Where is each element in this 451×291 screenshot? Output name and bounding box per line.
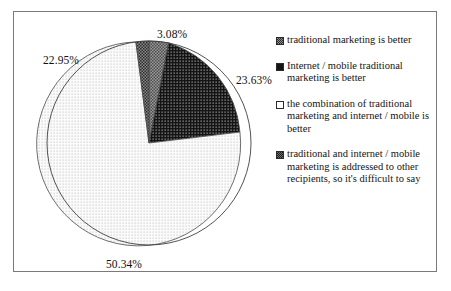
pie-chart-plot-area: 3.08% 23.63% 50.34% 22.95%	[14, 12, 276, 271]
pie-value-label-combination-better: 50.34%	[106, 258, 142, 270]
legend-item-label: Internet / mobile traditional marketing …	[287, 60, 436, 85]
legend-item-combination-better[interactable]: the combination of traditional marketing…	[276, 98, 436, 136]
pie-value-label-traditional-better: 3.08%	[157, 28, 187, 40]
chart-frame: 3.08% 23.63% 50.34% 22.95% traditional m…	[13, 11, 437, 272]
legend-item-label: traditional marketing is better	[287, 34, 412, 47]
legend-swatch-icon	[276, 37, 284, 45]
legend-swatch-icon	[276, 63, 284, 71]
legend-item-traditional-better[interactable]: traditional marketing is better	[276, 34, 436, 47]
pie-chart-svg	[14, 12, 276, 271]
legend-item-label: the combination of traditional marketing…	[287, 98, 436, 136]
chart-legend: traditional marketing is better Internet…	[276, 34, 436, 199]
legend-item-label: traditional and internet / mobile market…	[287, 148, 436, 186]
legend-swatch-icon	[276, 151, 284, 159]
pie-value-label-internet-mobile-better: 23.63%	[236, 74, 272, 86]
legend-item-internet-mobile-better[interactable]: Internet / mobile traditional marketing …	[276, 60, 436, 85]
legend-swatch-icon	[276, 101, 284, 109]
legend-item-difficult-to-say[interactable]: traditional and internet / mobile market…	[276, 148, 436, 186]
pie-value-label-difficult-to-say: 22.95%	[43, 54, 79, 66]
